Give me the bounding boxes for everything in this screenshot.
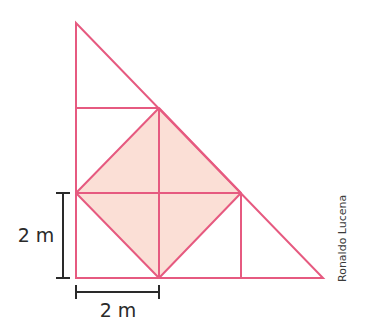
figure-svg: 2 m 2 m Ronaldo Lucena xyxy=(0,0,367,334)
geometry-figure: 2 m 2 m Ronaldo Lucena xyxy=(0,0,367,334)
horizontal-dimension xyxy=(76,285,159,299)
horizontal-dimension-label: 2 m xyxy=(100,299,137,321)
image-credit: Ronaldo Lucena xyxy=(336,195,349,282)
outer-triangle xyxy=(76,23,323,278)
vertical-dimension xyxy=(56,193,70,278)
vertical-dimension-label: 2 m xyxy=(18,224,55,246)
